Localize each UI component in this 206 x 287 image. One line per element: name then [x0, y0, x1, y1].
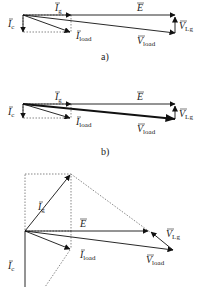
panel-c: Ig E Ic Iload Vload VLg [7, 174, 180, 287]
ig-arrow [25, 175, 70, 231]
vload-arrow [23, 15, 175, 33]
label-vlg: VLg [166, 228, 180, 241]
label-ic: Ic [7, 106, 14, 119]
vload-arrow [25, 231, 173, 250]
phasor-diagram: Ig E Ic Iload Vload VLg a) Ig E Ic Iload… [0, 0, 206, 287]
caption-b: b) [101, 146, 109, 158]
label-vlg: VLg [179, 20, 193, 33]
label-vload: Vload [146, 254, 165, 267]
label-iload: Iload [75, 116, 92, 129]
iload-projection-line [45, 250, 70, 287]
label-iload: Iload [79, 249, 96, 262]
label-e: E [136, 91, 143, 102]
label-e: E [136, 2, 143, 13]
caption-a: a) [101, 51, 109, 63]
label-ig: Ig [54, 91, 62, 104]
label-ic: Ic [7, 18, 14, 31]
panel-a: Ig E Ic Iload Vload VLg a) [7, 2, 193, 63]
label-vload: Vload [137, 123, 156, 136]
label-ic: Ic [7, 260, 14, 273]
panel-b: Ig E Ic Iload Vload VLg b) [7, 91, 193, 158]
label-iload: Iload [75, 30, 92, 43]
label-vload: Vload [137, 35, 156, 48]
label-e: E [79, 218, 86, 229]
vload-arrow [23, 104, 175, 119]
label-ig: Ig [37, 201, 45, 214]
label-ig: Ig [54, 2, 62, 15]
label-vlg: VLg [179, 108, 193, 121]
phasor-overbars [9, 3, 187, 261]
